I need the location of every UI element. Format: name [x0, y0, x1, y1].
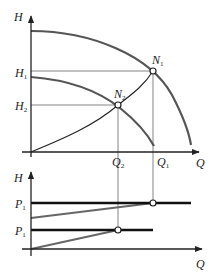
system-curve: [31, 71, 153, 152]
top-panel: H Q H1 H2 Q2 Q1 N1 N2: [13, 10, 205, 230]
point-p-upper: [150, 200, 156, 206]
top-x-axis-label: Q: [196, 156, 205, 170]
p1-lower-label: P1: [14, 224, 26, 239]
pump-characteristic-diagram: H Q H1 H2 Q2 Q1 N1 N2 H Q P1 P1: [0, 0, 214, 279]
n2-label: N2: [113, 87, 126, 102]
bottom-y-axis-label: H: [13, 171, 24, 185]
point-n2: [115, 102, 121, 108]
bottom-x-axis-label: Q: [196, 257, 205, 271]
q1-label: Q1: [157, 155, 170, 170]
point-n1: [150, 68, 156, 74]
point-p-lower: [115, 227, 121, 233]
h1-label: H1: [14, 66, 28, 81]
power-slope-upper: [31, 203, 153, 218]
pump-curve-high: [31, 31, 191, 145]
p1-upper-label: P1: [14, 197, 26, 212]
power-slope-lower: [31, 230, 118, 249]
h2-label: H2: [14, 99, 28, 114]
bottom-panel: H Q P1 P1: [13, 171, 205, 271]
top-y-axis-label: H: [13, 10, 24, 24]
q2-label: Q2: [112, 155, 125, 170]
pump-curve-low: [31, 77, 154, 146]
n1-label: N1: [151, 53, 164, 68]
